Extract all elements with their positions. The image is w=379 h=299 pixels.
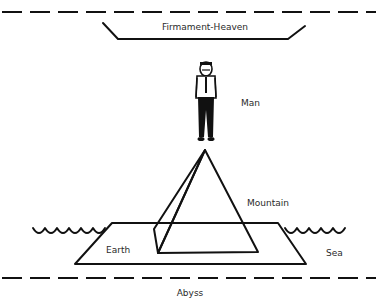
earth-platform [75, 223, 306, 264]
man-figure [196, 62, 216, 141]
label-mountain: Mountain [247, 198, 289, 208]
label-abyss: Abyss [177, 288, 204, 298]
label-sea: Sea [326, 248, 343, 258]
label-man: Man [241, 98, 260, 108]
label-earth: Earth [106, 245, 130, 255]
sea-waves-right [285, 228, 345, 233]
cosmology-diagram: Firmament-Heaven Man Earth Mountain Sea … [0, 0, 379, 299]
sea-waves-left [33, 228, 105, 233]
mountain-pyramid [154, 150, 258, 253]
label-firmament-heaven: Firmament-Heaven [162, 22, 248, 32]
